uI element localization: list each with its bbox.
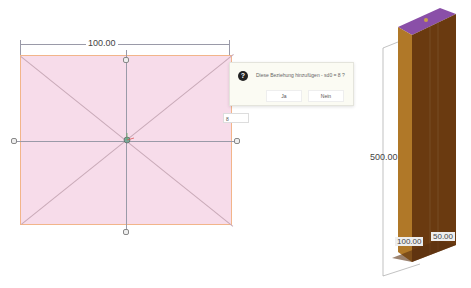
sketch-canvas[interactable]: 100.00 ? Diese Beziehung hinzufügen - sd… [0, 0, 360, 288]
width-dimension-line [20, 44, 230, 45]
question-icon: ? [238, 71, 248, 81]
height-dimension-label[interactable]: 500.00 [368, 152, 400, 162]
yes-button[interactable]: Ja [266, 90, 302, 102]
dimension-value-input[interactable]: 8 [223, 113, 249, 123]
dialog-message: Diese Beziehung hinzufügen - sd0 = 8 ? [256, 72, 345, 78]
3d-model-view[interactable]: 500.00 100.00 50.00 [382, 0, 471, 288]
dim-ext-left [20, 40, 21, 56]
dialog: ? Diese Beziehung hinzufügen - sd0 = 8 ?… [229, 62, 354, 106]
constraint-marker-icon[interactable] [234, 138, 240, 144]
width-dimension-label[interactable]: 100.00 [86, 38, 118, 48]
origin-triad-icon [120, 133, 134, 147]
no-button[interactable]: Nein [308, 90, 344, 102]
constraint-marker-icon[interactable] [123, 57, 129, 63]
constraint-marker-icon[interactable] [123, 229, 129, 235]
constraint-marker-icon[interactable] [11, 138, 17, 144]
base-width-dimension-label[interactable]: 100.00 [395, 237, 423, 246]
base-depth-dimension-label[interactable]: 50.00 [431, 232, 455, 241]
